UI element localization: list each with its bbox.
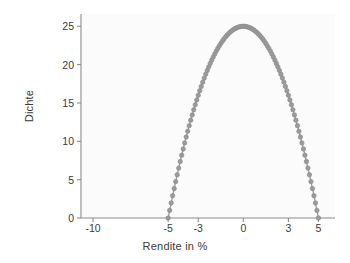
data-point [170, 193, 174, 197]
y-tick-label: 10 [48, 135, 74, 147]
data-point [180, 153, 184, 157]
y-tick-label: 5 [48, 174, 74, 186]
data-point [285, 89, 289, 93]
data-point [312, 193, 316, 197]
data-point [295, 123, 299, 127]
data-point [176, 166, 180, 170]
data-point [297, 129, 301, 133]
x-tick-label: 0 [223, 222, 263, 234]
data-point [196, 93, 200, 97]
data-point [181, 147, 185, 151]
data-point [192, 108, 196, 112]
data-point [292, 113, 296, 117]
data-point [169, 201, 173, 205]
x-axis-label: Rendite in % [0, 240, 350, 252]
data-point [307, 173, 311, 177]
data-point [300, 141, 304, 145]
data-point [166, 216, 170, 220]
data-point [289, 103, 293, 107]
data-point [184, 135, 188, 139]
x-tick-label: -10 [73, 222, 113, 234]
data-point [310, 186, 314, 190]
data-point [199, 84, 203, 88]
data-point [282, 80, 286, 84]
data-point [286, 93, 290, 97]
data-point [283, 84, 287, 88]
data-point [304, 159, 308, 163]
data-point [303, 153, 307, 157]
data-point [195, 98, 199, 102]
data-point [190, 113, 194, 117]
y-tick-label: 15 [48, 97, 74, 109]
y-tick-label: 25 [48, 20, 74, 32]
data-point [189, 118, 193, 122]
data-point [291, 108, 295, 112]
data-point [187, 123, 191, 127]
x-axis-tick-labels: -10-5-3035 [0, 222, 350, 238]
data-point [178, 159, 182, 163]
data-point [172, 186, 176, 190]
data-series-group [166, 24, 321, 220]
data-point [186, 129, 190, 133]
data-point [173, 179, 177, 183]
data-point [313, 201, 317, 205]
data-point [301, 147, 305, 151]
y-tick-label: 20 [48, 59, 74, 71]
data-point [298, 135, 302, 139]
data-point [316, 216, 320, 220]
x-tick-label: -3 [178, 222, 218, 234]
data-point [193, 103, 197, 107]
data-point [306, 166, 310, 170]
data-point [288, 98, 292, 102]
data-point [167, 208, 171, 212]
data-point [294, 118, 298, 122]
x-tick-label: 5 [298, 222, 338, 234]
data-point [175, 173, 179, 177]
data-point [315, 208, 319, 212]
chart-figure: Dichte 0510152025 -10-5-3035 Rendite in … [0, 0, 350, 263]
data-point [198, 89, 202, 93]
data-point [309, 179, 313, 183]
data-point [183, 141, 187, 145]
